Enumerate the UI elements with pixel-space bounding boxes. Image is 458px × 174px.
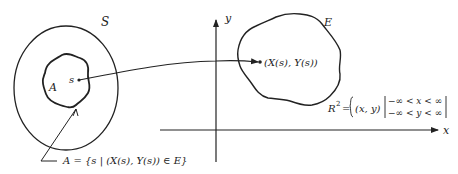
leader-line: [41, 109, 76, 161]
y-axis-label: y: [224, 12, 232, 25]
random-vector-mapping-diagram: S A s y x E (X(s), Y(s)) R 2 = (x, y) −∞…: [0, 0, 458, 174]
condition-y: −∞ < y < ∞: [388, 108, 442, 118]
event-A-label: A: [48, 81, 57, 94]
x-axis-label: x: [443, 124, 450, 137]
left-brace: [350, 97, 353, 117]
event-A-region: A: [43, 54, 90, 107]
point-s: s: [69, 74, 81, 85]
plane-definition: R 2 = (x, y) −∞ < x < ∞ −∞ < y < ∞: [327, 96, 446, 118]
equals-sign: =: [342, 103, 350, 114]
coordinate-axes: y x: [160, 12, 450, 162]
set-variable: (x, y): [355, 103, 381, 114]
sample-space-S: S: [14, 15, 118, 150]
r2-superscript: 2: [336, 100, 340, 108]
sample-space-label: S: [101, 15, 109, 29]
point-s-label: s: [69, 74, 74, 85]
image-point: (X(s), Y(s)): [258, 57, 318, 68]
mapping-arrow: [79, 61, 258, 80]
event-E-label: E: [323, 16, 332, 29]
image-point-label: (X(s), Y(s)): [264, 57, 318, 68]
set-definition-label: A = {s | (X(s), Y(s)) ∈ E}: [62, 155, 187, 167]
set-definition-callout: A = {s | (X(s), Y(s)) ∈ E}: [41, 109, 187, 167]
condition-x: −∞ < x < ∞: [388, 96, 442, 106]
r2-symbol: R: [327, 103, 336, 114]
